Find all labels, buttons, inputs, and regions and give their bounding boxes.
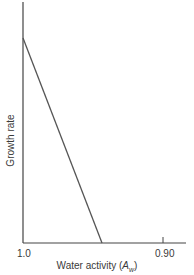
x-axis-label-symbol: A	[122, 260, 129, 271]
x-axis-label-close: )	[134, 260, 137, 271]
y-axis-label: Growth rate	[5, 101, 16, 181]
x-tick-label-1-0: 1.0	[17, 248, 31, 259]
chart-plot-area	[0, 0, 194, 275]
x-axis-label-text: Water activity (	[57, 260, 123, 271]
x-tick-label-0-90: 0.90	[155, 248, 174, 259]
growth-rate-line	[23, 38, 102, 243]
x-axis-label: Water activity (Aw)	[0, 260, 194, 273]
